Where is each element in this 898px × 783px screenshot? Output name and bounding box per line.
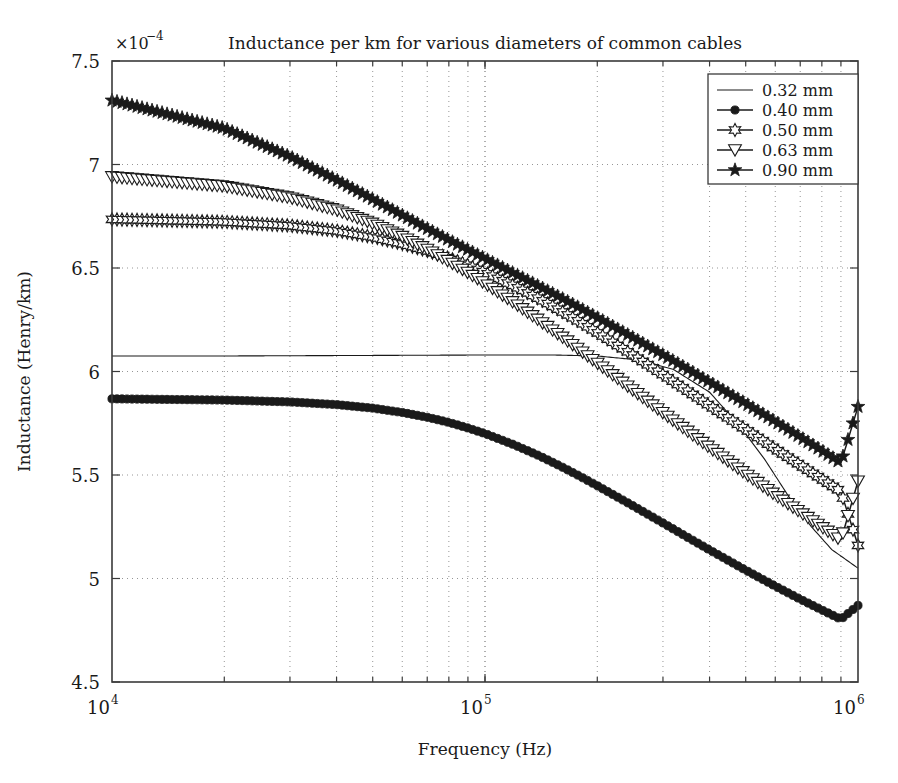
legend-entry-label: 0.90 mm [762,161,833,180]
circle-marker [731,106,739,114]
legend-entry-label: 0.40 mm [762,101,833,120]
y-tick-label: 5.5 [71,465,100,486]
x-axis-label: Frequency (Hz) [418,739,552,759]
y-tick-label: 6 [89,362,100,383]
y-exponent-power: −4 [146,29,164,43]
y-tick-label: 5 [89,569,100,590]
y-tick-label: 7 [89,155,100,176]
y-exponent-base: ×10 [115,34,149,53]
x-tick-base: 10 [460,697,483,718]
legend-entry-label: 0.32 mm [762,81,833,100]
y-axis-label: Inductance (Henry/km) [14,271,34,472]
chart-figure: 4.555.566.577.5×10−4104105106Inductance … [0,0,898,783]
legend-entry-label: 0.50 mm [762,121,833,140]
chart-title: Inductance per km for various diameters … [228,33,742,53]
x-tick-base: 10 [833,697,856,718]
x-tick-power: 6 [857,693,865,707]
x-tick-base: 10 [87,697,110,718]
legend-entry-label: 0.63 mm [762,141,833,160]
y-tick-label: 4.5 [71,672,100,693]
x-tick-power: 5 [484,693,492,707]
legend: 0.32 mm0.40 mm0.50 mm0.63 mm0.90 mm [708,74,858,184]
y-tick-label: 6.5 [71,258,100,279]
x-tick-power: 4 [111,693,119,707]
y-tick-label: 7.5 [71,51,100,72]
y-axis-exponent: ×10 [115,34,149,53]
data-marker-circle-filled [731,106,739,114]
